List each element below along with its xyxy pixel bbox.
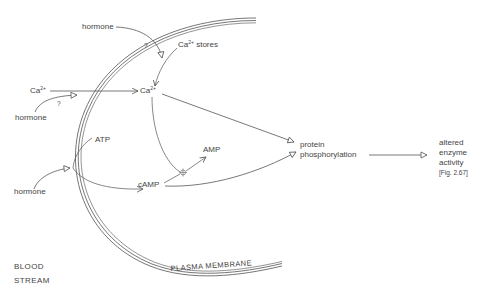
- amp-label: AMP: [203, 145, 220, 155]
- blood-label: BLOOD: [14, 262, 44, 272]
- activity-label: activity: [439, 158, 463, 168]
- altered-label: altered: [439, 138, 463, 148]
- phosphorylation-label: phosphorylation: [300, 150, 356, 160]
- atp-label: ATP: [95, 135, 110, 145]
- plasma-membrane: [75, 18, 282, 276]
- diagram-lines: [0, 0, 479, 296]
- hormone-signaling-diagram: hormone ? Ca2+ stores Ca2+ ? hormone Ca2…: [0, 0, 479, 296]
- stream-label: STREAM: [14, 276, 50, 286]
- unknown-mechanism-marker-top: ?: [144, 41, 148, 51]
- extracellular-calcium-label: Ca2+: [30, 86, 46, 96]
- ca-stores-label: Ca2+ stores: [178, 40, 218, 50]
- camp-label: cAMP: [138, 180, 159, 190]
- hormone-label-top: hormone: [82, 22, 114, 32]
- protein-label: protein: [300, 140, 324, 150]
- enzyme-label: enzyme: [439, 148, 467, 158]
- hormone-label-left: hormone: [15, 113, 47, 123]
- phosphodiesterase-node: [179, 169, 187, 177]
- hormone-label-bottom: hormone: [14, 187, 46, 197]
- intracellular-calcium-label: Ca2+: [140, 86, 156, 96]
- unknown-mechanism-marker-left: ?: [57, 99, 61, 109]
- figure-reference: [Fig. 2.67]: [439, 168, 468, 178]
